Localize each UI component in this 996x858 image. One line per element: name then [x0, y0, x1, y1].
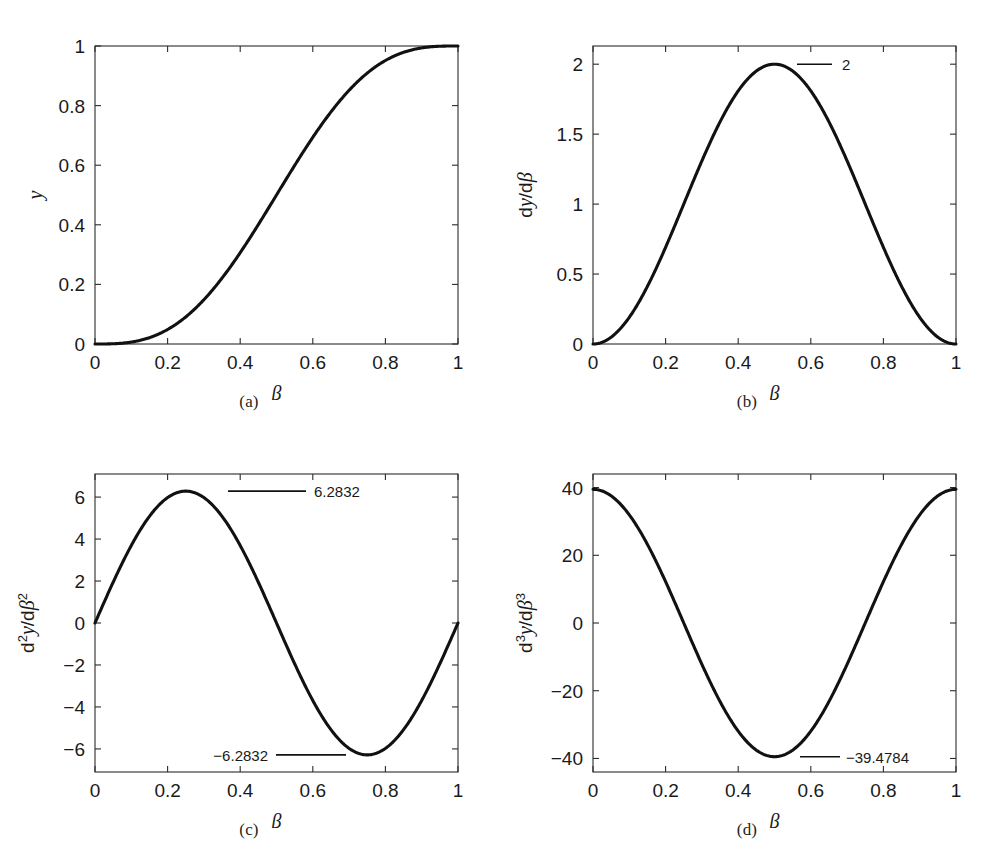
x-tick-label: 1 [951, 352, 962, 373]
panel-b-caption: (b) [498, 392, 996, 412]
y-tick-label: 6 [74, 487, 85, 508]
panel-a-caption: (a) [0, 392, 498, 412]
y-tick-label: 0 [572, 613, 583, 634]
y-tick-label: 0 [74, 613, 85, 634]
y-tick-label: 0.8 [59, 96, 85, 117]
data-curve [593, 64, 956, 344]
y-tick-label: 0.2 [59, 274, 85, 295]
panel-b: 00.20.40.60.8100.511.52βdy/dβ2 (b) [498, 0, 996, 430]
annotation-label: 6.2832 [314, 483, 360, 500]
annotation-1: −6.2832 [213, 747, 346, 764]
x-tick-label: 0.4 [725, 780, 752, 801]
y-axis-label: dy/dβ [514, 172, 537, 217]
panel-b-plot: 00.20.40.60.8100.511.52βdy/dβ2 [498, 0, 996, 400]
x-tick-label: 0.6 [798, 352, 824, 373]
x-tick-label: 0.8 [372, 352, 398, 373]
x-tick-label: 0.4 [227, 780, 254, 801]
y-axis-label: d3y/dβ3 [513, 593, 538, 653]
y-tick-label: −4 [63, 697, 85, 718]
x-tick-label: 0.2 [154, 780, 180, 801]
x-tick-label: 0.8 [870, 352, 896, 373]
x-tick-label: 0.6 [300, 780, 326, 801]
x-tick-label: 1 [951, 780, 962, 801]
y-tick-label: 1 [74, 36, 85, 57]
svg-text:d3y/dβ3: d3y/dβ3 [513, 593, 538, 653]
x-tick-label: 0 [588, 780, 599, 801]
x-tick-label: 0.2 [652, 780, 678, 801]
panel-c: 00.20.40.60.81−6−4−20246βd2y/dβ26.2832−6… [0, 428, 498, 858]
y-tick-label: 2 [74, 571, 85, 592]
y-tick-label: 1 [572, 194, 583, 215]
x-tick-label: 0 [90, 352, 101, 373]
x-tick-label: 1 [453, 352, 464, 373]
plot-frame [593, 474, 956, 772]
annotation-0: −39.4784 [800, 749, 909, 766]
svg-text:dy/dβ: dy/dβ [514, 172, 537, 217]
annotation-label: −39.4784 [846, 749, 909, 766]
x-tick-label: 0 [588, 352, 599, 373]
x-tick-label: 0.8 [870, 780, 896, 801]
y-tick-label: 0.6 [59, 155, 85, 176]
data-curve [593, 489, 956, 756]
panel-d-caption: (d) [498, 820, 996, 840]
y-tick-label: 1.5 [557, 124, 583, 145]
y-tick-label: −6 [63, 739, 85, 760]
x-tick-label: 0.8 [372, 780, 398, 801]
x-tick-label: 0.4 [227, 352, 254, 373]
y-tick-label: −2 [63, 655, 85, 676]
y-tick-label: −40 [551, 748, 583, 769]
annotation-label: −6.2832 [213, 747, 268, 764]
data-curve [95, 46, 458, 344]
panel-d-plot: 00.20.40.60.81−40−2002040βd3y/dβ3−39.478… [498, 428, 996, 828]
x-tick-label: 0.2 [652, 352, 678, 373]
y-tick-label: 0 [74, 334, 85, 355]
svg-text:d2y/dβ2: d2y/dβ2 [15, 593, 40, 653]
y-tick-label: 4 [74, 529, 85, 550]
x-tick-label: 0 [90, 780, 101, 801]
panel-d: 00.20.40.60.81−40−2002040βd3y/dβ3−39.478… [498, 428, 996, 858]
y-tick-label: −20 [551, 681, 583, 702]
y-tick-label: 0.4 [59, 215, 86, 236]
y-axis-label: d2y/dβ2 [15, 593, 40, 653]
panel-a-plot: 00.20.40.60.8100.20.40.60.81βy [0, 0, 498, 400]
data-curve [95, 491, 458, 755]
y-tick-label: 0 [572, 334, 583, 355]
panel-a: 00.20.40.60.8100.20.40.60.81βy (a) [0, 0, 498, 430]
x-tick-label: 0.6 [300, 352, 326, 373]
panel-c-caption: (c) [0, 820, 498, 840]
x-tick-label: 0.6 [798, 780, 824, 801]
y-tick-label: 20 [562, 545, 583, 566]
y-tick-label: 40 [562, 478, 583, 499]
panel-c-plot: 00.20.40.60.81−6−4−20246βd2y/dβ26.2832−6… [0, 428, 498, 828]
annotation-0: 6.2832 [228, 483, 360, 500]
y-axis-label: y [24, 190, 47, 201]
figure-root: 00.20.40.60.8100.20.40.60.81βy (a) 00.20… [0, 0, 996, 858]
y-tick-label: 0.5 [557, 264, 583, 285]
x-tick-label: 0.2 [154, 352, 180, 373]
annotation-0: 2 [797, 56, 850, 73]
svg-text:y: y [24, 190, 47, 201]
x-tick-label: 0.4 [725, 352, 752, 373]
plot-frame [593, 46, 956, 344]
y-tick-label: 2 [572, 54, 583, 75]
annotation-label: 2 [842, 56, 850, 73]
x-tick-label: 1 [453, 780, 464, 801]
